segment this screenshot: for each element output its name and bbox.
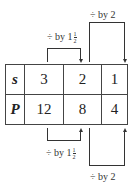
cell-p-1: 12 bbox=[25, 95, 64, 125]
fraction-one-half: 12 bbox=[73, 147, 76, 160]
label-text: by 2 bbox=[98, 9, 116, 20]
divide-symbol: ÷ bbox=[90, 9, 96, 20]
cell-s-2: 2 bbox=[64, 65, 102, 95]
table-row-s: s 3 2 1 bbox=[6, 65, 128, 95]
arrow-down-icon bbox=[79, 59, 83, 63]
table-row-p: P 12 8 4 bbox=[6, 95, 128, 125]
arrow-up-icon bbox=[123, 128, 127, 132]
cell-s-1: 3 bbox=[25, 65, 64, 95]
label-text: by 2 bbox=[98, 171, 116, 182]
divide-symbol: ÷ bbox=[46, 147, 52, 158]
frac-denominator: 2 bbox=[74, 38, 77, 44]
row-header-s: s bbox=[6, 65, 25, 95]
frac-numerator: 1 bbox=[74, 31, 77, 38]
bottom-label-divide-by-2: ÷ by 2 bbox=[90, 172, 116, 182]
top-label-divide-by-1-half: ÷ by 112 bbox=[47, 31, 77, 44]
divide-symbol: ÷ bbox=[90, 171, 96, 182]
bottom-label-divide-by-1-half: ÷ by 112 bbox=[46, 147, 76, 160]
top-label-divide-by-2: ÷ by 2 bbox=[90, 10, 116, 20]
divide-symbol: ÷ bbox=[47, 31, 53, 42]
cell-p-3: 4 bbox=[102, 95, 128, 125]
frac-numerator: 1 bbox=[73, 147, 76, 154]
fraction-one-half: 12 bbox=[74, 31, 77, 44]
cell-s-3: 1 bbox=[102, 65, 128, 95]
frac-denominator: 2 bbox=[73, 154, 76, 160]
label-text: by 1 bbox=[55, 31, 73, 42]
row-header-p: P bbox=[6, 95, 25, 125]
s-p-table: s 3 2 1 P 12 8 4 bbox=[5, 64, 128, 125]
cell-p-2: 8 bbox=[64, 95, 102, 125]
label-text: by 1 bbox=[54, 147, 72, 158]
arrow-down-icon bbox=[123, 59, 127, 63]
arrow-up-icon bbox=[79, 128, 83, 132]
